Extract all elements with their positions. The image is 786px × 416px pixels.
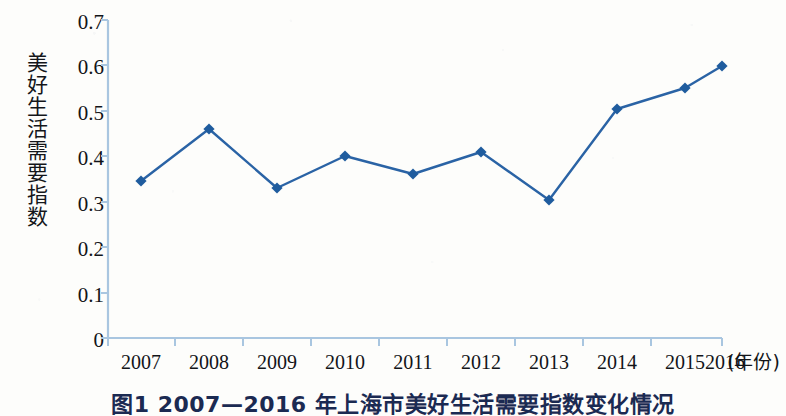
data-series-markers: [135, 60, 727, 205]
data-point-2016: [716, 60, 727, 71]
data-point-2011: [407, 168, 418, 179]
x-axis-ticks: [108, 338, 722, 346]
chart-figure: 美好生活需要指数 0.7 0.6 0.5 0.4 0.3 0.2 0.1 0 2…: [0, 0, 786, 380]
chart-plot-svg: [0, 0, 786, 380]
data-series-line: [141, 66, 722, 200]
figure-caption: 图1 2007—2016 年上海市美好生活需要指数变化情况: [0, 386, 786, 416]
data-point-2010: [339, 150, 350, 161]
data-point-2015: [679, 82, 690, 93]
figure-page: 美好生活需要指数 0.7 0.6 0.5 0.4 0.3 0.2 0.1 0 2…: [0, 0, 786, 416]
